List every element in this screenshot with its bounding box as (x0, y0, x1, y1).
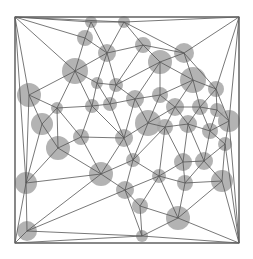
triangulation-diagram (0, 0, 253, 259)
graph-edge (27, 231, 142, 236)
graph-edge (26, 95, 29, 183)
graph-edge (27, 190, 125, 231)
graph-edge (15, 17, 91, 22)
graph-edge (107, 22, 124, 53)
graph-edge (116, 45, 143, 85)
graph-edge (165, 127, 183, 162)
nodes-layer (15, 16, 240, 242)
graph-edge (91, 22, 107, 53)
graph-edge (184, 17, 239, 53)
graph-edge (26, 174, 101, 183)
graph-edge (140, 176, 159, 206)
graph-edge (15, 17, 29, 95)
graph-edge (58, 148, 101, 174)
graph-edge (29, 71, 75, 95)
graph-edge (124, 17, 239, 22)
graph-edge (27, 174, 101, 231)
graph-edge (15, 17, 75, 71)
graph-edge (57, 108, 81, 137)
graph-edge (15, 17, 85, 38)
graph-edge (188, 124, 204, 161)
graph-edge (124, 22, 143, 45)
graph-edge (92, 106, 124, 138)
graph-edge (133, 160, 159, 176)
graph-edge (124, 22, 184, 53)
graph-edge (116, 62, 160, 85)
graph-edge (97, 83, 110, 104)
